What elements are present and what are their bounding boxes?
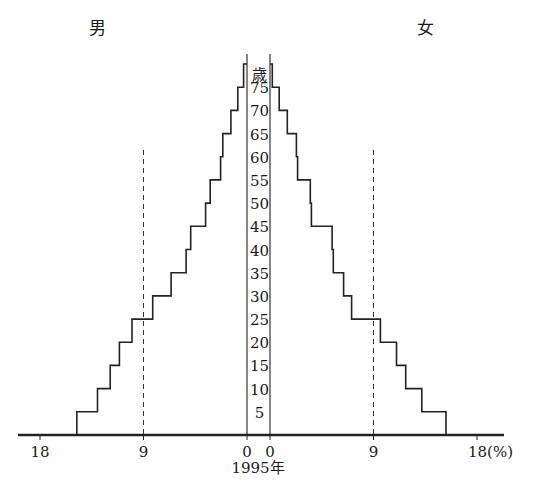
age-tick-label: 30	[250, 288, 269, 306]
age-tick-label: 10	[250, 381, 269, 399]
female-label: 女	[417, 18, 434, 38]
x-tick-label: 18	[30, 443, 49, 461]
age-tick-label: 50	[250, 195, 269, 213]
age-tick-labels: 51015202530354045505560657075歳	[250, 66, 269, 422]
age-tick-label: 60	[250, 149, 269, 167]
age-tick-label: 20	[250, 334, 269, 352]
x-axis: 18900918(%)	[18, 435, 513, 461]
age-unit-label: 歳	[252, 66, 267, 84]
age-tick-label: 70	[250, 102, 269, 120]
x-tick-label: 9	[139, 443, 149, 461]
female-step-outline	[270, 64, 446, 435]
age-tick-label: 45	[250, 218, 269, 236]
population-pyramid-chart: 51015202530354045505560657075歳 18900918(…	[0, 0, 537, 497]
male-label: 男	[89, 18, 106, 38]
age-tick-label: 5	[255, 404, 265, 422]
x-tick-label: 9	[369, 443, 379, 461]
male-pyramid-outline	[77, 64, 247, 435]
x-tick-label: 18(%)	[468, 443, 513, 461]
age-tick-label: 65	[250, 126, 269, 144]
female-pyramid-outline	[270, 64, 446, 435]
chart-title-year: 1995年	[231, 459, 284, 477]
age-tick-label: 15	[250, 357, 269, 375]
male-step-outline	[77, 64, 247, 435]
age-tick-label: 35	[250, 265, 269, 283]
age-tick-label: 55	[250, 172, 269, 190]
age-tick-label: 40	[250, 242, 269, 260]
age-tick-label: 25	[250, 311, 269, 329]
